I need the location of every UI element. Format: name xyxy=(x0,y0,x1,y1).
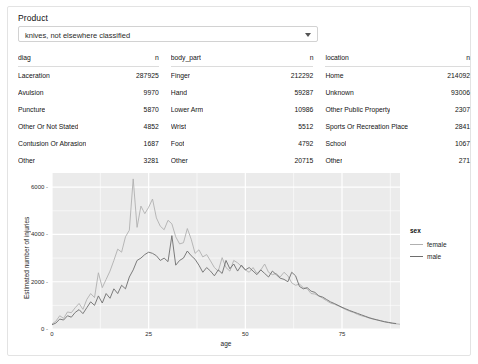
y-tick-label: 4000 - xyxy=(31,231,48,237)
series-line-female xyxy=(52,179,400,324)
summary-tables: diagnLaceration287925Avulsion9970Punctur… xyxy=(18,51,470,169)
injuries-by-age-chart: Estimated number of injuries 0 -2000 -40… xyxy=(20,165,460,351)
legend-label: female xyxy=(427,241,447,248)
cell-category: Contusion Or Abrasion xyxy=(18,135,86,152)
series-line-male xyxy=(52,236,396,325)
chevron-down-icon[interactable] xyxy=(305,33,311,37)
cell-category: Other Public Property xyxy=(325,101,390,118)
cell-count: 9970 xyxy=(144,84,159,101)
table-row: Contusion Or Abrasion1687 xyxy=(18,135,159,152)
table-diag: diagnLaceration287925Avulsion9970Punctur… xyxy=(18,51,171,169)
column-header: diag xyxy=(18,51,31,64)
table-header-row: body_partn xyxy=(171,51,314,67)
dashboard-card: Product knives, not elsewhere classified… xyxy=(7,6,471,356)
cell-category: Foot xyxy=(171,135,185,152)
legend-item-female: female xyxy=(410,239,462,249)
legend-item-male: male xyxy=(410,251,462,261)
table-row: Hand59287 xyxy=(171,84,314,101)
cell-count: 2841 xyxy=(455,118,470,135)
cell-category: Avulsion xyxy=(18,84,44,101)
cell-category: Hand xyxy=(171,84,187,101)
cell-count: 1067 xyxy=(455,135,470,152)
cell-count: 5870 xyxy=(144,101,159,118)
legend-key-icon xyxy=(410,241,423,248)
legend-key-icon xyxy=(410,253,423,260)
table-body-part: body_partnFinger212292Hand59287Lower Arm… xyxy=(171,51,326,169)
cell-count: 4792 xyxy=(298,135,313,152)
chart-y-axis-ticks: 0 -2000 -4000 -6000 - xyxy=(28,173,50,329)
chart-lines xyxy=(52,173,400,329)
cell-category: Lower Arm xyxy=(171,101,203,118)
cell-count: 271 xyxy=(459,152,470,169)
table-row: Avulsion9970 xyxy=(18,84,159,101)
cell-category: Other Or Not Stated xyxy=(18,118,78,135)
x-tick-label: 50 xyxy=(242,331,249,337)
cell-count: 5512 xyxy=(298,118,313,135)
x-tick-label: 25 xyxy=(145,331,152,337)
table-row: Laceration287925 xyxy=(18,67,159,84)
cell-category: School xyxy=(325,135,346,152)
table-location: locationnHome214092Unknown93006Other Pub… xyxy=(325,51,470,169)
column-header: body_part xyxy=(171,51,201,64)
table-row: Puncture5870 xyxy=(18,101,159,118)
cell-category: Finger xyxy=(171,67,190,84)
cell-count: 93006 xyxy=(451,84,470,101)
cell-category: Home xyxy=(325,67,343,84)
table-row: Finger212292 xyxy=(171,67,314,84)
product-label: Product xyxy=(18,13,462,23)
chart-legend: sex femalemale xyxy=(410,227,462,263)
column-header: n xyxy=(466,51,470,64)
legend-label: male xyxy=(427,253,441,260)
y-tick-label: 0 - xyxy=(41,326,48,332)
cell-category: Wrist xyxy=(171,118,186,135)
cell-count: 287925 xyxy=(136,67,159,84)
cell-category: Unknown xyxy=(325,84,353,101)
cell-count: 10986 xyxy=(295,101,314,118)
table-header-row: locationn xyxy=(325,51,470,67)
cell-count: 59287 xyxy=(295,84,314,101)
x-tick-label: 0 xyxy=(50,331,53,337)
table-header-row: diagn xyxy=(18,51,159,67)
table-row: Sports Or Recreation Place2841 xyxy=(325,118,470,135)
legend-title: sex xyxy=(410,227,462,234)
table-row: Home214092 xyxy=(325,67,470,84)
table-row: Wrist5512 xyxy=(171,118,314,135)
cell-count: 214092 xyxy=(447,67,470,84)
column-header: location xyxy=(325,51,348,64)
x-tick-label: 75 xyxy=(339,331,346,337)
cell-count: 2307 xyxy=(455,101,470,118)
chart-plot-panel xyxy=(52,173,400,329)
legend-items: femalemale xyxy=(410,239,462,261)
chart-x-axis-label: age xyxy=(52,340,400,347)
table-row: School1067 xyxy=(325,135,470,152)
cell-count: 4852 xyxy=(144,118,159,135)
product-select-value: knives, not elsewhere classified xyxy=(25,31,130,40)
y-tick-label: 6000 - xyxy=(31,184,48,190)
column-header: n xyxy=(310,51,314,64)
cell-category: Laceration xyxy=(18,67,50,84)
cell-category: Sports Or Recreation Place xyxy=(325,118,408,135)
table-row: Other Public Property2307 xyxy=(325,101,470,118)
table-row: Lower Arm10986 xyxy=(171,101,314,118)
table-row: Foot4792 xyxy=(171,135,314,152)
cell-count: 212292 xyxy=(291,67,314,84)
y-tick-label: 2000 - xyxy=(31,279,48,285)
table-row: Unknown93006 xyxy=(325,84,470,101)
table-row: Other Or Not Stated4852 xyxy=(18,118,159,135)
product-select[interactable]: knives, not elsewhere classified xyxy=(18,26,318,42)
product-selector-group: Product knives, not elsewhere classified xyxy=(18,13,462,42)
cell-count: 1687 xyxy=(144,135,159,152)
column-header: n xyxy=(155,51,159,64)
cell-category: Puncture xyxy=(18,101,45,118)
